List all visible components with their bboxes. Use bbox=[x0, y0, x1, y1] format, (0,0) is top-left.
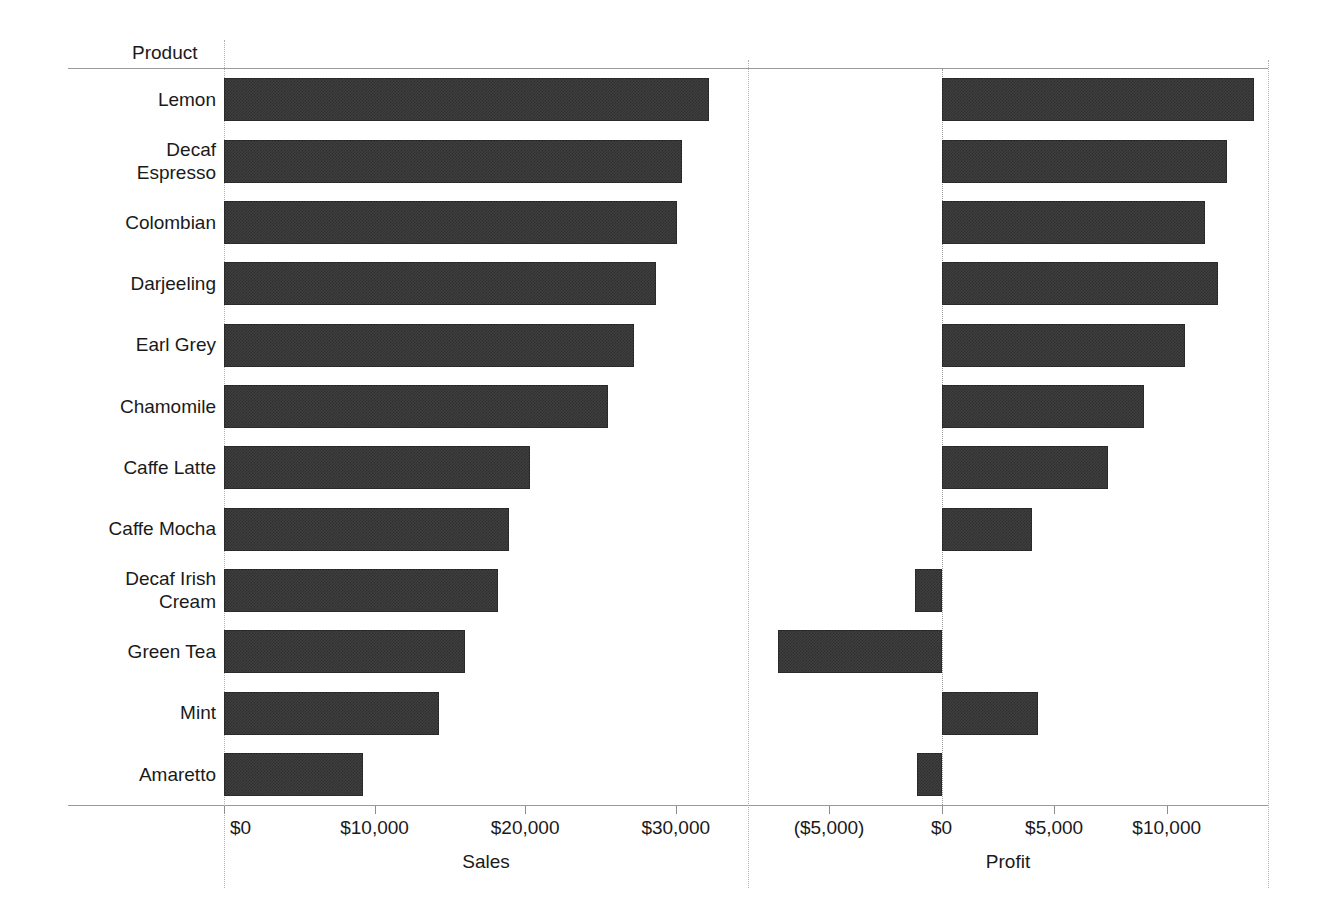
bar-sales[interactable] bbox=[224, 753, 363, 796]
row-label: Colombian bbox=[68, 192, 216, 253]
bar-profit[interactable] bbox=[942, 201, 1205, 244]
axis-tick bbox=[224, 806, 225, 814]
axis-title-profit: Profit bbox=[986, 850, 1030, 873]
bar-profit[interactable] bbox=[942, 324, 1185, 367]
row-label: Caffe Latte bbox=[68, 437, 216, 498]
axis-tick bbox=[1167, 806, 1168, 814]
bar-sales[interactable] bbox=[224, 508, 509, 551]
bar-profit[interactable] bbox=[942, 262, 1219, 305]
bar-profit[interactable] bbox=[917, 753, 942, 796]
bar-sales[interactable] bbox=[224, 78, 709, 121]
axis-tick-label: $10,000 bbox=[1132, 816, 1201, 839]
bar-sales[interactable] bbox=[224, 140, 682, 183]
bar-sales[interactable] bbox=[224, 385, 608, 428]
bar-sales[interactable] bbox=[224, 569, 498, 612]
bar-profit[interactable] bbox=[915, 569, 942, 612]
bottom-axis-line bbox=[68, 805, 1268, 806]
bar-sales[interactable] bbox=[224, 262, 656, 305]
axis-tick-label: $30,000 bbox=[641, 816, 710, 839]
bar-profit[interactable] bbox=[942, 140, 1228, 183]
row-label: Caffe Mocha bbox=[68, 498, 216, 559]
axis-title-sales: Sales bbox=[462, 850, 510, 873]
row-label: Darjeeling bbox=[68, 253, 216, 314]
bar-profit[interactable] bbox=[942, 508, 1032, 551]
axis-tick-label: $5,000 bbox=[1025, 816, 1083, 839]
axis-tick-label: ($5,000) bbox=[794, 816, 865, 839]
right-frame-line bbox=[1268, 60, 1269, 888]
row-label: Chamomile bbox=[68, 376, 216, 437]
axis-tick-label: $20,000 bbox=[491, 816, 560, 839]
row-label: Decaf IrishCream bbox=[68, 560, 216, 621]
axis-tick bbox=[1054, 806, 1055, 814]
bar-profit[interactable] bbox=[942, 385, 1145, 428]
axis-tick bbox=[829, 806, 830, 814]
row-label: DecafEspresso bbox=[68, 130, 216, 191]
axis-tick bbox=[942, 806, 943, 814]
sales-pane bbox=[224, 69, 748, 805]
profit-pane bbox=[748, 69, 1268, 805]
row-label: Mint bbox=[68, 682, 216, 743]
axis-tick bbox=[676, 806, 677, 814]
row-label: Earl Grey bbox=[68, 314, 216, 375]
axis-tick bbox=[525, 806, 526, 814]
bar-sales[interactable] bbox=[224, 630, 465, 673]
axis-tick-label: $0 bbox=[230, 816, 251, 839]
bar-profit[interactable] bbox=[942, 692, 1039, 735]
row-label: Amaretto bbox=[68, 744, 216, 805]
row-label-column: LemonDecafEspressoColombianDarjeelingEar… bbox=[68, 69, 216, 805]
bar-sales[interactable] bbox=[224, 201, 677, 244]
row-field-caption: Product bbox=[132, 42, 197, 64]
bar-profit[interactable] bbox=[942, 78, 1255, 121]
bar-sales[interactable] bbox=[224, 324, 634, 367]
axis-tick bbox=[375, 806, 376, 814]
bar-sales[interactable] bbox=[224, 446, 530, 489]
bar-sales[interactable] bbox=[224, 692, 439, 735]
chart-canvas: Product LemonDecafEspressoColombianDarje… bbox=[0, 0, 1339, 923]
bar-profit[interactable] bbox=[942, 446, 1109, 489]
bar-profit[interactable] bbox=[778, 630, 941, 673]
axis-tick-label: $0 bbox=[931, 816, 952, 839]
axis-tick-label: $10,000 bbox=[340, 816, 409, 839]
row-label: Green Tea bbox=[68, 621, 216, 682]
row-label: Lemon bbox=[68, 69, 216, 130]
